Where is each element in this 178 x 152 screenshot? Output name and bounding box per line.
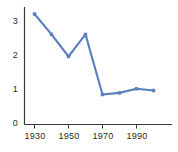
data-series-line — [35, 14, 154, 95]
data-point-1940 — [50, 33, 53, 36]
data-point-1980 — [118, 91, 121, 94]
x-tick-label-1950: 1950 — [53, 131, 85, 141]
data-point-1930 — [33, 12, 36, 15]
x-tick-label-1970: 1970 — [87, 131, 119, 141]
y-tick-label-0: 0 — [2, 118, 18, 128]
data-point-1990 — [135, 87, 138, 90]
data-point-markers — [33, 12, 155, 96]
y-tick-label-1: 1 — [2, 84, 18, 94]
x-tick-label-1990: 1990 — [121, 131, 153, 141]
data-point-1960 — [84, 33, 87, 36]
x-tick-label-1930: 1930 — [19, 131, 51, 141]
line-chart: 3 2 1 0 1930 1950 1970 1990 — [0, 0, 178, 152]
plot-area — [0, 0, 178, 152]
data-point-1950 — [67, 55, 70, 58]
y-tick-label-3: 3 — [2, 16, 18, 26]
data-point-2000 — [152, 89, 155, 92]
y-tick-label-2: 2 — [2, 50, 18, 60]
data-point-1970 — [101, 93, 104, 96]
